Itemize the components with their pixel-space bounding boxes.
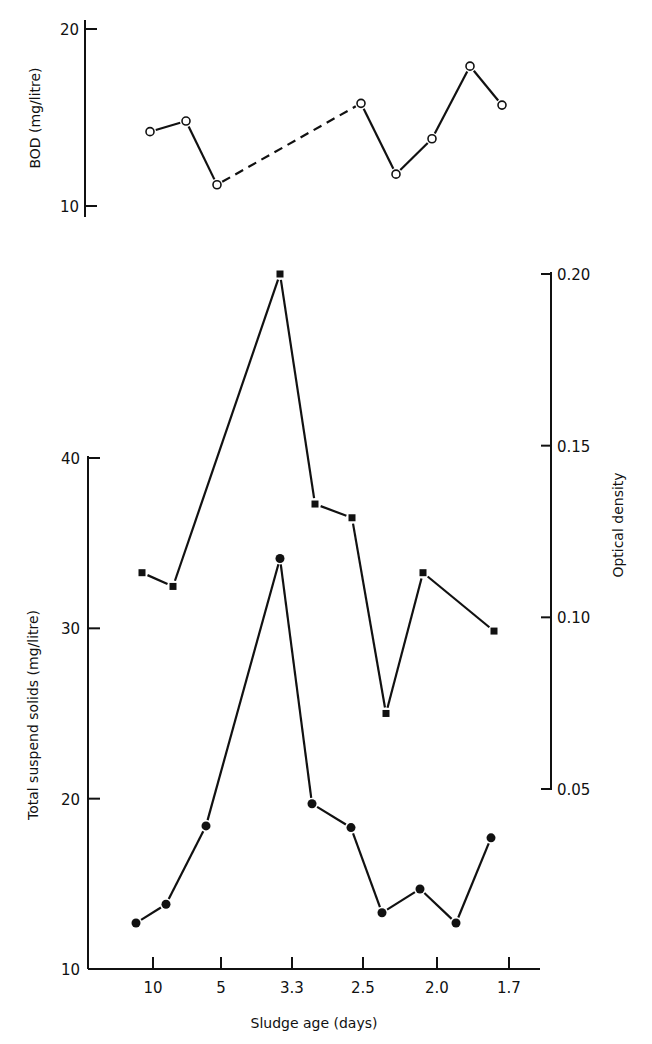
tss-point [378, 908, 387, 917]
tss-point [202, 821, 211, 830]
od-point [349, 514, 356, 521]
od-y-axis: Optical density 0.050.100.150.20 [541, 266, 626, 799]
x-tick-1.7: 1.7 [497, 979, 521, 997]
bod-point [213, 181, 221, 189]
bod-point [466, 62, 474, 70]
tss-point [276, 554, 285, 563]
sludge-age-x-axis: Sludge age (days) 1053.32.52.01.7 [88, 957, 540, 1031]
tss-tick-20: 20 [61, 791, 80, 809]
od-axis-title: Optical density [610, 472, 626, 577]
od-point [170, 583, 177, 590]
x-tick-10: 10 [143, 979, 162, 997]
tss-tick-10: 10 [61, 961, 80, 979]
bod-point [428, 135, 436, 143]
od-point [383, 710, 390, 717]
bod-point [392, 170, 400, 178]
bod-tick-10: 10 [60, 198, 79, 216]
bod-point [146, 128, 154, 136]
tss-point [452, 919, 461, 928]
chart-canvas: 20 10 BOD (mg/litre) Total suspend solid… [0, 0, 652, 1044]
tss-point [416, 884, 425, 893]
sludge-age-chart: 20 10 BOD (mg/litre) Total suspend solid… [0, 0, 652, 1044]
bod-point [182, 117, 190, 125]
od-tick-0.15: 0.15 [557, 438, 590, 456]
od-point [139, 569, 146, 576]
od-tick-0.10: 0.10 [557, 609, 590, 627]
series-layer [132, 62, 507, 927]
od-series [139, 271, 498, 717]
tss-tick-40: 40 [61, 450, 80, 468]
od-point [277, 271, 284, 278]
bod-point [498, 101, 506, 109]
bod-tick-20: 20 [60, 21, 79, 39]
od-point [420, 569, 427, 576]
bod-point [357, 99, 365, 107]
tss-y-axis: Total suspend solids (mg/litre) 10203040 [25, 450, 100, 979]
tss-point [308, 799, 317, 808]
x-axis-title: Sludge age (days) [251, 1015, 378, 1031]
od-point [491, 628, 498, 635]
tss-point [347, 823, 356, 832]
x-tick-2.5: 2.5 [351, 979, 375, 997]
od-tick-0.05: 0.05 [557, 781, 590, 799]
x-tick-3.3: 3.3 [280, 979, 304, 997]
tss-point [162, 900, 171, 909]
od-point [312, 501, 319, 508]
tss-series [132, 554, 496, 928]
tss-point [487, 833, 496, 842]
od-tick-0.20: 0.20 [557, 266, 590, 284]
tss-point [132, 919, 141, 928]
bod-axis-title: BOD (mg/litre) [27, 67, 43, 168]
bod-y-axis: 20 10 BOD (mg/litre) [27, 20, 97, 217]
x-tick-5: 5 [216, 979, 226, 997]
x-tick-2.0: 2.0 [425, 979, 449, 997]
bod-series [146, 62, 506, 189]
tss-tick-30: 30 [61, 620, 80, 638]
tss-axis-title: Total suspend solids (mg/litre) [25, 610, 41, 821]
